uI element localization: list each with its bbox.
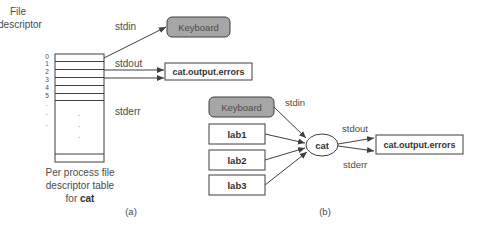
input-label-lab2: lab2 [227,155,246,166]
fd-title-line2: descriptor [0,19,43,30]
fd-number-3: 3 [45,76,49,83]
lab1-to-cat-arrow [265,134,305,143]
inner-dot: . [78,132,80,139]
keyboard-label-b: Keyboard [221,102,262,113]
fd-dot-1: . [46,100,48,107]
lab3-to-cat-arrow [265,152,307,185]
caption-bold-cat: cat [80,193,95,204]
fd-number-5: 5 [45,92,49,99]
stderr-arrow-b [338,146,374,151]
stdout-arrow-b [338,138,374,144]
fd-table [55,54,104,162]
output-file-label-b: cat.output.errors [383,140,455,150]
fd-number-4: 4 [45,84,49,91]
stderr-label-a: stderr [115,106,141,117]
fd-table-frame [55,54,104,162]
caption-line1: Per process file [46,167,115,178]
diagram-canvas: File descriptor 0 1 2 3 4 5 . . . . . [0,0,480,229]
fd-number-2: 2 [45,68,49,75]
panel-label-b: (b) [319,206,331,217]
panel-b: Keyboard stdin lab1 lab2 lab3 cat stdout… [209,97,463,217]
fd-number-0: 0 [45,53,49,60]
fd-number-1: 1 [45,60,49,67]
fd-dot-2: . [46,109,48,116]
inner-dot: . [78,121,80,128]
fd-dot-3: . [46,120,48,127]
output-file-label-a: cat.output.errors [172,67,244,77]
stderr-label-b: stderr [343,159,367,170]
inner-dot: . [78,110,80,117]
panel-label-a: (a) [125,206,137,217]
caption-line3: for cat [66,193,96,204]
caption-line2: descriptor table [46,180,115,191]
keyboard-label-a: Keyboard [178,22,219,33]
stdin-label-b: stdin [285,97,305,108]
keyboard-to-cat-arrow [274,107,306,138]
stdin-label-a: stdin [115,21,136,32]
fd-title-line1: File [10,6,27,17]
input-label-lab3: lab3 [227,180,246,191]
stdout-label-a: stdout [115,58,142,69]
caption-prefix: for [66,193,80,204]
fd-number-column: 0 1 2 3 4 5 . . . [45,53,49,127]
cat-process-label: cat [315,140,330,151]
stdout-label-b: stdout [342,123,368,134]
input-label-lab1: lab1 [227,129,247,140]
fd-table-inner-dots: . . . [78,110,80,139]
